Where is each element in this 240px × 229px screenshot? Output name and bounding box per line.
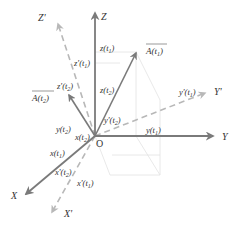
x-prime-t2-label: x'(t2) <box>54 167 72 178</box>
y-prime-axis-label: Y' <box>214 86 223 97</box>
x-prime-t1-label: x'(t1) <box>76 178 94 189</box>
y-axis-label: Y <box>222 131 229 142</box>
vector-a-t2-label: A(t2) <box>31 93 49 104</box>
origin-label: O <box>96 138 103 149</box>
x-t2-label: x(t2) <box>74 132 90 143</box>
x-t1-label: x(t1) <box>49 148 65 159</box>
y-t1-label: y(t1) <box>145 125 161 136</box>
z-prime-t1-label: z'(t1) <box>73 58 90 69</box>
y-prime-t1-label: y'(t1) <box>178 87 196 98</box>
x-prime-axis-label: X' <box>63 208 73 219</box>
x-axis-label: X <box>10 190 18 201</box>
z-axis-label: Z <box>101 11 107 22</box>
vector-a-t1-label: A(t1) <box>145 46 163 57</box>
coordinate-diagram: Z Y X Z' Y' X' O A(t1) A(t2) z(t1) z'(t1… <box>0 0 240 229</box>
y-t2-label: y(t2) <box>55 124 71 135</box>
z-t1-label: z(t1) <box>99 43 115 54</box>
z-prime-axis <box>58 24 95 136</box>
vector-a-t2 <box>69 95 95 136</box>
z-prime-t2-label: z'(t2) <box>56 81 73 92</box>
z-prime-axis-label: Z' <box>38 12 47 23</box>
z-t2-label: z(t2) <box>99 85 115 96</box>
y-prime-t2-label: y'(t2) <box>103 115 121 126</box>
